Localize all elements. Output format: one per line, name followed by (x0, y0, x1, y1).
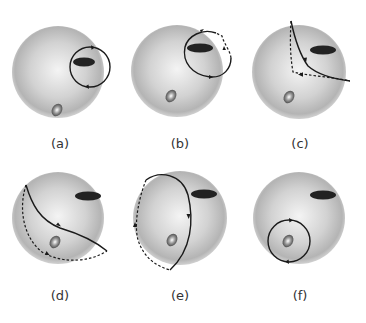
dark-ellipse (310, 191, 336, 200)
panel-d: (d) (0, 160, 120, 320)
panel-label-c: (c) (240, 136, 360, 151)
dark-ellipse (191, 190, 217, 199)
sphere-diagram-f (240, 160, 366, 300)
panel-f: (f) (240, 160, 360, 320)
sphere-diagram-c (240, 0, 366, 140)
dark-ellipse (73, 58, 95, 67)
panel-e: (e) (120, 160, 240, 320)
sphere (133, 171, 227, 265)
panel-a: (a) (0, 0, 120, 160)
sphere-diagram-e (120, 160, 240, 300)
sphere-diagram-b (120, 0, 240, 140)
panel-label-b: (b) (120, 136, 240, 151)
panel-b: (b) (120, 0, 240, 160)
panel-label-a: (a) (0, 136, 120, 151)
panel-c: (c) (240, 0, 360, 160)
dark-ellipse (310, 46, 336, 55)
sphere-diagram-d (0, 160, 120, 300)
panel-label-d: (d) (0, 288, 120, 303)
sphere (253, 172, 345, 264)
dark-ellipse (75, 192, 101, 201)
panel-label-f: (f) (240, 288, 360, 303)
sphere-diagram-a (0, 0, 120, 140)
sphere (131, 25, 223, 117)
sphere (252, 25, 346, 119)
panel-label-e: (e) (120, 288, 240, 303)
arrow-icon (223, 46, 227, 50)
dark-ellipse (187, 44, 213, 53)
